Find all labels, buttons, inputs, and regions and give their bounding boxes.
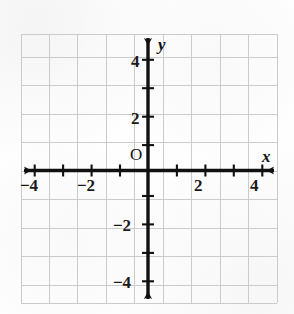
- coordinate-plane-svg: [0, 0, 294, 314]
- x-tick-label-2: 2: [194, 177, 202, 194]
- coordinate-plane-figure: −4 −2 2 4 4 2 −2 −4 y x O: [0, 0, 294, 314]
- scanned-figure-page: −4 −2 2 4 4 2 −2 −4 y x O: [0, 0, 294, 314]
- y-tick-label-minus-4: −4: [113, 274, 131, 291]
- y-tick-label-4: 4: [131, 53, 139, 70]
- y-tick-label-minus-2: −2: [113, 217, 131, 234]
- y-tick-label-2: 2: [131, 110, 139, 127]
- y-axis-name-label: y: [158, 36, 166, 53]
- origin-label: O: [130, 146, 142, 163]
- x-tick-label-minus-2: −2: [77, 177, 95, 194]
- x-tick-label-minus-4: −4: [20, 177, 38, 194]
- x-tick-label-4: 4: [250, 177, 258, 194]
- x-axis-name-label: x: [262, 148, 271, 165]
